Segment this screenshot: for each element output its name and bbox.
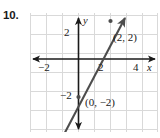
x-tick-label-neg2: −2 — [38, 62, 50, 73]
point-2-2 — [108, 19, 112, 23]
y-tick-label-2: 2 — [64, 27, 70, 38]
point-label-2-2: (2, 2) — [113, 32, 137, 43]
y-axis-label: y — [83, 16, 88, 27]
x-axis-label: x — [147, 63, 152, 74]
graph-figure: 10. — [0, 0, 160, 138]
y-tick-label-neg2: −2 — [60, 90, 72, 101]
point-label-0-neg2: (0, −2) — [85, 97, 115, 108]
x-tick-label-2: 2 — [98, 62, 104, 73]
problem-number: 10. — [3, 10, 18, 22]
point-0-neg2 — [76, 95, 80, 99]
x-tick-label-4: 4 — [133, 62, 139, 73]
